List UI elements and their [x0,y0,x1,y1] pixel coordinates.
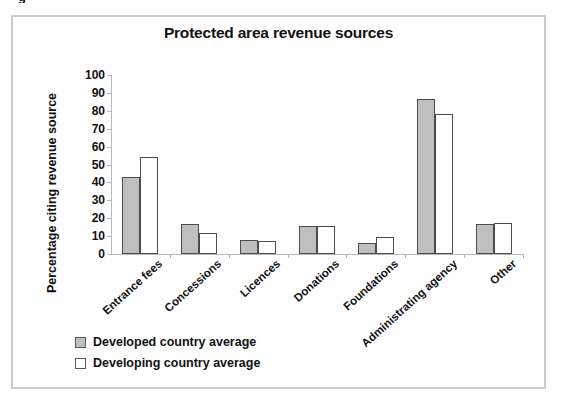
bar-developed[interactable] [476,224,494,254]
clipped-caption-fragment: g [18,0,32,3]
bar-group[interactable] [240,75,276,254]
x-tick-mark [170,254,171,258]
y-tick-label: 50 [92,158,105,172]
bar-group[interactable] [417,75,453,254]
x-axis-label-text: Licences [238,254,286,299]
x-tick-mark [288,254,289,258]
chart-title: Protected area revenue sources [13,24,544,42]
x-axis-label-text: Administrating agency [359,254,463,349]
bar-developing[interactable] [199,233,217,254]
bar-group[interactable] [358,75,394,254]
y-tick-label: 10 [92,229,105,243]
bar-developed[interactable] [181,224,199,254]
bar-developed[interactable] [358,243,376,254]
x-axis-label-text: Concessions [162,254,227,314]
x-tick-mark [405,254,406,258]
x-tick-mark [346,254,347,258]
y-tick-mark [107,254,111,255]
bar-developing[interactable] [435,114,453,254]
x-axis-label-text: Entrance fees [101,254,169,317]
x-tick-mark [229,254,230,258]
y-tick-label: 40 [92,175,105,189]
x-axis-label: Concessions [162,254,227,314]
bar-group[interactable] [299,75,335,254]
bar-developing[interactable] [258,241,276,254]
bar-developed[interactable] [299,226,317,254]
legend-swatch-icon [75,358,86,369]
x-axis-label: Administrating agency [359,254,463,349]
x-axis-label-text: Foundations [341,254,404,312]
y-tick-label: 90 [92,86,105,100]
x-axis-label: Other [487,254,522,287]
chart-legend: Developed country averageDeveloping coun… [75,335,260,377]
x-tick-mark [464,254,465,258]
bar-developing[interactable] [494,223,512,254]
plot-area: Percentage citing revenue source 0102030… [111,75,523,260]
legend-label: Developing country average [93,356,260,370]
y-tick-label: 60 [92,140,105,154]
bar-developing[interactable] [317,226,335,254]
legend-item[interactable]: Developing country average [75,356,260,370]
legend-swatch-icon [75,337,86,348]
x-axis-label: Entrance fees [101,254,169,317]
bar-developing[interactable] [376,237,394,254]
bar-developed[interactable] [417,99,435,254]
y-tick-label: 0 [98,247,105,261]
bar-group[interactable] [122,75,158,254]
y-tick-label: 30 [92,193,105,207]
x-axis-label-text: Other [487,254,522,287]
bar-developed[interactable] [240,240,258,254]
x-tick-mark [523,254,524,258]
bar-group[interactable] [181,75,217,254]
y-tick-label: 70 [92,122,105,136]
x-axis-label-text: Donations [291,254,345,304]
bar-developed[interactable] [122,177,140,254]
legend-label: Developed country average [93,335,256,349]
x-axis-line [111,254,523,255]
figure-frame: Protected area revenue sources Percentag… [11,15,546,389]
x-axis-label: Donations [291,254,345,304]
x-axis-label: Licences [238,254,286,299]
bar-group[interactable] [476,75,512,254]
x-axis-label: Foundations [341,254,404,312]
bars-layer [111,75,523,254]
legend-item[interactable]: Developed country average [75,335,260,349]
y-tick-label: 80 [92,104,105,118]
bar-developing[interactable] [140,157,158,254]
y-tick-label: 20 [92,211,105,225]
y-axis-title: Percentage citing revenue source [45,81,65,305]
y-tick-label: 100 [85,68,105,82]
